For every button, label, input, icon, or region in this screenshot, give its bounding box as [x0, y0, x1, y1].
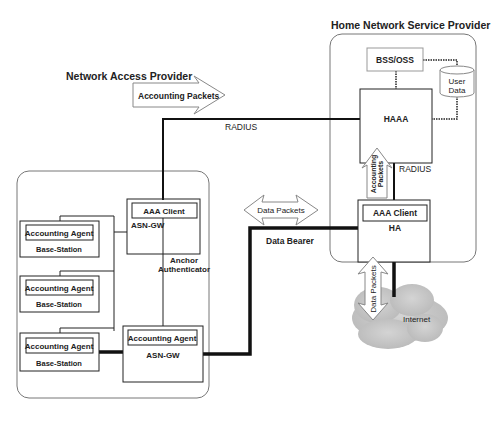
asn-bottom-agent-label: Accounting Agent — [128, 334, 197, 343]
userdata-haaa-link — [432, 96, 457, 119]
asn-top-aaa-client-label: AAA Client — [143, 207, 185, 216]
haaa-label: HAAA — [384, 114, 409, 124]
bs3-label: Base-Station — [36, 359, 82, 368]
bs3-agent-label: Accounting Agent — [25, 342, 94, 351]
ha-aaa-client-label: AAA Client — [373, 208, 417, 218]
internet-label: Internet — [403, 315, 431, 324]
bs1-agent-label: Accounting Agent — [25, 229, 94, 238]
data-bearer-label: Data Bearer — [266, 236, 314, 246]
bs1-label: Base-Station — [36, 245, 82, 254]
radius-top-label: RADIUS — [225, 122, 257, 132]
anchor-label-1: Anchor — [170, 256, 198, 265]
bs2-agent-label: Accounting Agent — [25, 284, 94, 293]
network-diagram: Home Network Service Provider Network Ac… — [0, 0, 499, 421]
data-packets-vertical-label: Data Packets — [369, 265, 378, 313]
asn-gw-bottom-label: ASN-GW — [146, 351, 180, 360]
ha-label: HA — [389, 223, 401, 233]
access-region-title: Network Access Provider — [66, 70, 192, 82]
bs3-bus-link — [60, 328, 114, 333]
anchor-label-2: Authenticator — [158, 265, 210, 274]
user-data-label-2: Data — [449, 86, 466, 95]
accounting-packets-label: Accounting Packets — [138, 91, 220, 101]
asn-gw-top-label: ASN-GW — [131, 221, 165, 230]
haaa-box — [360, 89, 432, 163]
bs2-bus-link — [60, 271, 114, 276]
data-bearer-link — [203, 228, 358, 354]
accounting-vertical-label-2: Packets — [377, 161, 384, 188]
bss-oss-label: BSS/OSS — [376, 55, 414, 65]
radius-right-label: RADIUS — [399, 164, 431, 174]
user-data-label-1: User — [449, 77, 466, 86]
home-region-title: Home Network Service Provider — [331, 19, 490, 31]
data-packets-label: Data Packets — [257, 206, 305, 215]
bs2-label: Base-Station — [36, 300, 82, 309]
